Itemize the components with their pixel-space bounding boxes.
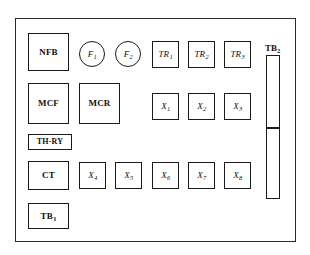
component-nfb: NFB <box>28 33 69 71</box>
component-label-x1: X1 <box>161 102 170 111</box>
component-label-nfb: NFB <box>39 48 58 57</box>
component-subscript-tr3: 3 <box>241 53 244 60</box>
component-subscript-x3: 3 <box>239 105 242 112</box>
strip-segment-tb2-lower <box>266 128 280 199</box>
component-subscript-x8: 8 <box>239 174 242 181</box>
component-x8: X8 <box>224 162 251 189</box>
component-tr3: TR3 <box>224 41 251 68</box>
component-subscript-x1: 1 <box>167 105 170 112</box>
component-label-mcr: MCR <box>88 99 110 108</box>
strip-segment-tb2-upper <box>266 55 280 128</box>
component-tb1: TB1 <box>28 203 69 229</box>
component-label-tr1: TR1 <box>159 50 173 59</box>
component-label-mcf: MCF <box>38 99 59 108</box>
component-label-tr3: TR3 <box>231 50 245 59</box>
component-label-x5: X5 <box>124 171 133 180</box>
component-label-f2: F2 <box>124 50 133 59</box>
component-label-tb1: TB1 <box>41 212 57 221</box>
component-mcr: MCR <box>79 83 120 124</box>
panel-layout-diagram: NFBF1F2TR1TR2TR3MCFMCRX1X2X3TH-RYCTX4X5X… <box>0 0 310 255</box>
component-label-ct: CT <box>42 171 55 180</box>
component-x6: X6 <box>152 162 179 189</box>
component-f2: F2 <box>115 41 141 67</box>
component-tr1: TR1 <box>152 41 179 68</box>
component-x3: X3 <box>224 93 251 120</box>
component-subscript-tb1: 1 <box>53 215 56 222</box>
component-x2: X2 <box>188 93 215 120</box>
component-label-x3: X3 <box>233 102 242 111</box>
component-label-x8: X8 <box>233 171 242 180</box>
component-x7: X7 <box>188 162 215 189</box>
component-label-x2: X2 <box>197 102 206 111</box>
component-subscript-x5: 5 <box>130 174 133 181</box>
component-subscript-tr1: 1 <box>169 53 172 60</box>
terminal-strip-subscript-tb2: 2 <box>277 47 280 54</box>
component-tr2: TR2 <box>188 41 215 68</box>
component-subscript-x2: 2 <box>203 105 206 112</box>
component-subscript-f1: 1 <box>93 53 96 60</box>
component-subscript-x6: 6 <box>167 174 170 181</box>
component-f1: F1 <box>79 41 105 67</box>
component-subscript-f2: 2 <box>129 53 132 60</box>
component-subscript-x7: 7 <box>203 174 206 181</box>
component-label-f1: F1 <box>88 50 97 59</box>
component-label-tr2: TR2 <box>195 50 209 59</box>
component-thry: TH-RY <box>28 134 72 150</box>
component-label-x7: X7 <box>197 171 206 180</box>
component-subscript-x4: 4 <box>94 174 97 181</box>
component-x1: X1 <box>152 93 179 120</box>
component-subscript-tr2: 2 <box>205 53 208 60</box>
component-ct: CT <box>28 161 69 190</box>
component-label-x4: X4 <box>88 171 97 180</box>
terminal-strip-label-tb2: TB2 <box>265 44 280 53</box>
component-x4: X4 <box>79 162 106 189</box>
component-label-x6: X6 <box>161 171 170 180</box>
component-mcf: MCF <box>28 83 69 124</box>
component-x5: X5 <box>115 162 142 189</box>
component-label-thry: TH-RY <box>37 138 64 146</box>
